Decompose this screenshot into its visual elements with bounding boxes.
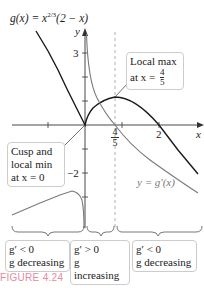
y-axis-label: y	[75, 25, 80, 37]
local-max-fraction: 4 5	[160, 68, 165, 87]
interval3-line1: g′ < 0	[136, 243, 193, 256]
x-label-text: x	[196, 128, 201, 140]
figure-caption: FIGURE 4.24	[0, 272, 63, 283]
cusp-callout: Cusp and local min at x = 0	[7, 142, 65, 187]
title-prefix: g(x) = x	[10, 12, 47, 24]
x-tick-label-4-5: 4 5	[111, 127, 119, 148]
cusp-line1: Cusp and	[11, 145, 61, 158]
title-suffix: (2 − x)	[56, 12, 88, 24]
interval3-brace	[117, 226, 202, 236]
x-axis-label: x	[196, 128, 201, 140]
cusp-line3: at x = 0	[11, 171, 61, 184]
interval1-line2: g decreasing	[9, 256, 66, 269]
local-max-line1: Local max	[130, 55, 180, 68]
local-max-num: 4	[160, 68, 165, 77]
interval3-box: g′ < 0 g decreasing	[132, 240, 197, 272]
interval1-box: g′ < 0 g decreasing	[5, 240, 70, 272]
gprime-curve-left	[12, 191, 84, 228]
interval3-line2: g decreasing	[136, 256, 193, 269]
local-max-line2-row: at x = 4 5	[130, 68, 180, 87]
tick-45-denominator: 5	[111, 137, 119, 148]
x-tick-label-2: 2	[156, 128, 162, 140]
title-exponent: 2/3	[47, 11, 56, 19]
y-axis-arrow-icon	[82, 28, 88, 36]
interval2-box: g′ > 0 g increasing	[70, 240, 130, 285]
y-tick-label-3: 3	[73, 47, 79, 59]
local-max-line2: at x =	[130, 71, 158, 84]
cusp-line2: local min	[11, 158, 61, 171]
y-tick-label-neg2: −2	[67, 167, 79, 179]
interval2-brace	[87, 226, 114, 236]
tick-45-numerator: 4	[111, 127, 119, 137]
interval1-brace	[12, 226, 84, 236]
interval2-line2: g increasing	[74, 256, 126, 282]
interval2-line1: g′ > 0	[74, 243, 126, 256]
chart-title: g(x) = x2/3(2 − x)	[10, 9, 88, 24]
gprime-label-text: y = g′(x)	[137, 176, 175, 188]
gprime-label: y = g′(x)	[137, 176, 175, 188]
local-max-den: 5	[160, 77, 165, 87]
interval1-line1: g′ < 0	[9, 243, 66, 256]
y-label-text: y	[75, 25, 80, 37]
local-max-callout: Local max at x = 4 5	[126, 52, 184, 90]
